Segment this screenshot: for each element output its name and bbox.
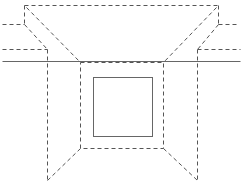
line-diagram [0,0,246,182]
inner-solid-square [94,78,153,137]
inner-dashed-rect [81,63,164,149]
diagram-canvas [0,0,246,182]
right-top-diagonal-outer-line [198,25,219,50]
solid-lines-group [3,62,241,137]
left-bottom-diagonal-line [48,149,81,181]
left-top-diagonal-outer-line [25,25,48,50]
right-top-diagonal-inner-line [164,8,217,63]
dashed-lines-group [3,6,241,181]
right-bottom-diagonal-line [164,149,198,181]
